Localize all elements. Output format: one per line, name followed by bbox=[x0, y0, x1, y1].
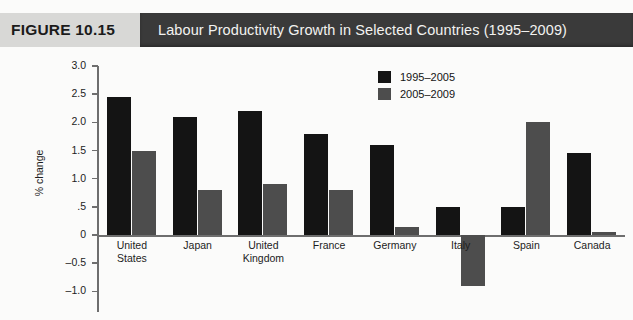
bar-spain-2005-2009 bbox=[526, 122, 550, 235]
bar-united-kingdom-1995-2005 bbox=[238, 111, 262, 235]
legend-swatch-icon bbox=[378, 71, 391, 83]
bar-france-1995-2005 bbox=[304, 134, 328, 235]
x-axis-label-canada: Canada bbox=[544, 239, 633, 252]
bars-layer bbox=[0, 47, 633, 320]
bar-united-kingdom-2005-2009 bbox=[263, 184, 287, 235]
chart-plot-area: 3.02.52.01.51.0.50–0.5–1.0 % change Unit… bbox=[0, 47, 633, 320]
figure-number-box: FIGURE 10.15 bbox=[0, 13, 140, 47]
legend-swatch-icon bbox=[378, 88, 391, 100]
bar-spain-1995-2005 bbox=[501, 207, 525, 235]
bar-united-states-1995-2005 bbox=[107, 97, 131, 235]
bar-germany-2005-2009 bbox=[395, 227, 419, 235]
bar-japan-1995-2005 bbox=[173, 117, 197, 235]
bar-japan-2005-2009 bbox=[198, 190, 222, 235]
bar-canada-2005-2009 bbox=[592, 232, 616, 235]
figure-container: FIGURE 10.15 Labour Productivity Growth … bbox=[0, 0, 633, 320]
legend-label: 1995–2005 bbox=[400, 71, 455, 83]
figure-title-box: Labour Productivity Growth in Selected C… bbox=[140, 13, 633, 47]
bar-germany-1995-2005 bbox=[370, 145, 394, 235]
legend-label: 2005–2009 bbox=[400, 88, 455, 100]
figure-number-label: FIGURE 10.15 bbox=[11, 21, 115, 39]
chart-legend: 1995–2005 2005–2009 bbox=[378, 70, 455, 104]
bar-canada-1995-2005 bbox=[567, 153, 591, 235]
legend-item: 1995–2005 bbox=[378, 70, 455, 83]
bar-italy-1995-2005 bbox=[436, 207, 460, 235]
bar-france-2005-2009 bbox=[329, 190, 353, 235]
legend-item: 2005–2009 bbox=[378, 87, 455, 100]
bar-united-states-2005-2009 bbox=[132, 151, 156, 235]
figure-header: FIGURE 10.15 Labour Productivity Growth … bbox=[0, 13, 633, 47]
figure-title: Labour Productivity Growth in Selected C… bbox=[158, 22, 567, 38]
